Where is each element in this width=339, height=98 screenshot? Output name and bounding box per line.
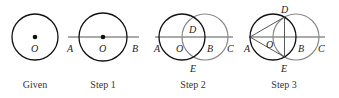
label-e: E: [280, 63, 287, 74]
label-o: O: [99, 43, 106, 54]
label-b: B: [298, 43, 304, 54]
caption-step-3: Step 3: [271, 79, 296, 90]
label-o: O: [176, 43, 183, 54]
geometric-construction-diagram: O Given A O B Step 1 D A O B C E Step 2 …: [0, 0, 339, 98]
label-b: B: [207, 43, 213, 54]
label-e: E: [189, 63, 196, 74]
label-a: A: [153, 43, 161, 54]
label-a: A: [243, 43, 251, 54]
caption-given: Given: [23, 79, 47, 90]
panel-given: O Given: [12, 14, 58, 90]
label-c: C: [227, 43, 234, 54]
label-o: O: [266, 39, 273, 50]
caption-step-2: Step 2: [180, 79, 205, 90]
label-b: B: [132, 43, 138, 54]
panel-step-3: D A O B C E Step 3: [243, 4, 325, 90]
panel-step-1: A O B Step 1: [66, 13, 139, 90]
label-d: D: [188, 24, 197, 35]
panel-step-2: D A O B C E Step 2: [153, 14, 234, 90]
center-point-o: [101, 35, 106, 40]
line-ad: [250, 17, 285, 37]
label-a: A: [66, 43, 74, 54]
label-c: C: [318, 43, 325, 54]
label-d: D: [280, 4, 289, 15]
caption-step-1: Step 1: [90, 79, 115, 90]
center-point-o: [33, 35, 38, 40]
label-o: O: [31, 43, 38, 54]
